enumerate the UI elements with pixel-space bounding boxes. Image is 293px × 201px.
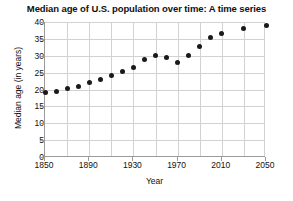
x-tick-label: 1850 (24, 161, 64, 170)
data-point (65, 86, 70, 91)
data-point (43, 90, 48, 95)
gridline-vertical (200, 22, 201, 156)
x-tick-mark (221, 157, 222, 161)
data-point (131, 65, 136, 70)
x-tick-label: 1930 (112, 161, 152, 170)
data-point (87, 80, 92, 85)
data-point (142, 57, 147, 62)
y-tick-label: 15 (6, 102, 44, 111)
data-point (164, 55, 169, 60)
x-tick-label: 2050 (245, 161, 285, 170)
data-point (197, 44, 202, 49)
y-tick-label: 25 (6, 69, 44, 78)
data-point (54, 89, 59, 94)
x-tick-label: 1890 (68, 161, 108, 170)
x-tick-mark (265, 157, 266, 161)
y-axis-title: Median age (in years) (13, 23, 23, 153)
x-tick-mark (44, 157, 45, 161)
data-point (153, 53, 158, 58)
data-point (264, 23, 269, 28)
data-point (241, 26, 246, 31)
y-tick-label: 10 (6, 119, 44, 128)
data-point (186, 53, 191, 58)
y-tick-label: 20 (6, 86, 44, 95)
gridline-vertical (156, 22, 157, 156)
data-point (109, 73, 114, 78)
x-tick-mark (88, 157, 89, 161)
data-point (76, 84, 81, 89)
gridline-vertical (133, 22, 134, 156)
gridline-vertical (178, 22, 179, 156)
x-tick-mark (177, 157, 178, 161)
chart-figure: Median age of U.S. population over time:… (0, 0, 293, 201)
gridline-vertical (222, 22, 223, 156)
data-point (219, 31, 224, 36)
gridline-vertical (89, 22, 90, 156)
x-tick-label: 2010 (201, 161, 241, 170)
data-point (175, 60, 180, 65)
y-tick-label: 35 (6, 35, 44, 44)
x-axis-title: Year (44, 176, 265, 186)
y-tick-label: 5 (6, 136, 44, 145)
data-point (98, 77, 103, 82)
y-tick-label: 40 (6, 18, 44, 27)
plot-area (44, 22, 265, 157)
y-tick-label: 30 (6, 52, 44, 61)
x-tick-label: 1970 (157, 161, 197, 170)
gridline-vertical (244, 22, 245, 156)
gridline-vertical (111, 22, 112, 156)
data-point (120, 69, 125, 74)
x-tick-mark (132, 157, 133, 161)
